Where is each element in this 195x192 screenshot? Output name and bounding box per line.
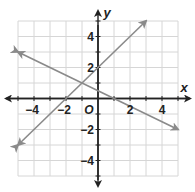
y-tick-label: −4 — [80, 154, 94, 168]
origin-label: O — [84, 103, 94, 117]
x-axis-label: x — [179, 80, 188, 95]
y-tick-label: −2 — [80, 123, 94, 137]
y-tick-label: 4 — [87, 30, 94, 44]
y-axis-label: y — [102, 5, 111, 20]
x-tick-label: 2 — [127, 103, 134, 117]
x-tick-label: 4 — [159, 103, 166, 117]
x-tick-label: −4 — [25, 103, 39, 117]
coordinate-plane: −4−22442−2−4xyO — [0, 0, 195, 192]
x-tick-label: −2 — [57, 103, 71, 117]
y-tick-label: 2 — [87, 61, 94, 75]
